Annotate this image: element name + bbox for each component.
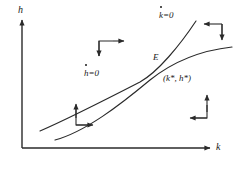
- k-dot-equation-rhs: =0: [163, 10, 174, 20]
- time-derivative-dot-icon: [85, 64, 87, 66]
- h-dot-nullcline-label: h =0: [84, 69, 99, 78]
- equilibrium-point-label: E: [153, 53, 159, 62]
- lower-right-quadrant-arrows: [190, 95, 207, 118]
- phase-diagram-canvas: [0, 0, 236, 169]
- phase-diagram-figure: h k k =0 h =0 E (k*, h*): [0, 0, 236, 169]
- axes-group: [22, 20, 210, 148]
- h-dot-equation-rhs: =0: [89, 68, 100, 78]
- k-dot-nullcline-label: k =0: [159, 11, 174, 20]
- k-dot-symbol: k: [159, 11, 163, 20]
- y-axis-label: h: [18, 5, 23, 15]
- upper-left-quadrant-arrows: [99, 41, 124, 56]
- equilibrium-coordinate-label: (k*, h*): [163, 74, 191, 83]
- x-axis-label: k: [216, 142, 220, 152]
- upper-right-quadrant-arrows: [204, 24, 222, 40]
- h-dot-nullcline-curve: [55, 47, 232, 140]
- h-dot-symbol: h: [84, 69, 89, 78]
- time-derivative-dot-icon: [160, 6, 162, 8]
